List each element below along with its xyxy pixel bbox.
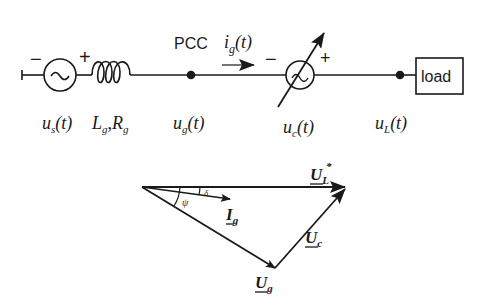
comp-minus-sign: − [265, 48, 277, 70]
psi-angle-arc [174, 187, 180, 206]
comp-plus-sign: + [320, 48, 331, 68]
current-label: ig(t) [224, 32, 252, 56]
ug-label-phasor: Ug [255, 273, 273, 294]
us-label: us(t) [42, 113, 72, 135]
pcc-label: PCC [174, 35, 208, 52]
pcc-node-icon [188, 72, 195, 79]
svg-text:Uc: Uc [305, 228, 322, 249]
uc-label-phasor: Uc [305, 228, 322, 249]
svg-text:Ig: Ig [225, 205, 239, 226]
source-minus-sign: − [30, 48, 42, 70]
psi-angle-label: ψ [182, 197, 189, 208]
inductor-icon [92, 62, 130, 83]
lg-rg-label: Lg,Rg [91, 113, 129, 135]
sine-icon [51, 73, 69, 80]
source-plus-sign: + [79, 46, 91, 68]
ul-star-label: UL* [310, 160, 332, 186]
ug-vector [142, 187, 275, 268]
delta-angle-arc [199, 187, 200, 195]
circuit-and-phasor-diagram: − + PCC ig(t) − + load us(t) Lg,Rg ug(t)… [0, 0, 487, 305]
svg-text:Ug: Ug [255, 273, 273, 294]
svg-text:UL*: UL* [310, 160, 332, 186]
load-label: load [421, 68, 451, 85]
controlled-source-icon [286, 61, 314, 89]
ug-label: ug(t) [173, 113, 205, 135]
ul-label: uL(t) [375, 113, 407, 135]
ig-label: Ig [225, 205, 239, 226]
variable-arrow-icon [278, 33, 324, 107]
uc-label: uc(t) [283, 117, 314, 139]
